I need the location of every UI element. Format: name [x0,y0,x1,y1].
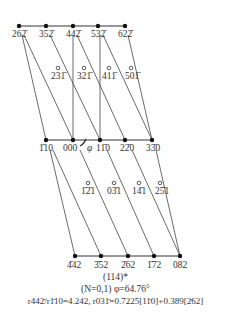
label-bottom-1: 3̄52 [94,260,109,270]
label-upper-open-1: 321̄ [77,71,93,81]
label-top-2: 442̄ [66,29,82,39]
label-middle-4: 33̄0 [146,143,161,153]
label-upper-open-3: 501̄ [125,71,141,81]
upper-connecting-lines [22,35,152,140]
label-middle-1: 000 [63,143,78,153]
label-middle-2: 11̄0 [96,143,110,153]
label-upper-open-0: 231̄ [51,71,67,81]
label-lower-open-3: 25̄1 [155,186,170,196]
caption-ratios: r442̄/r1̄10=4.242, r031̄=0.7225[11̄0]+0.… [0,296,231,306]
caption-zone-axis: (114)* [0,272,231,282]
label-bottom-2: 2̄62 [121,260,136,270]
lower-connecting-lines [50,150,180,256]
label-top-4: 622̄ [118,29,134,39]
label-middle-0: 1̄10 [39,143,53,153]
label-top-1: 352̄ [39,29,55,39]
label-bottom-3: 1̄72 [147,260,162,270]
label-upper-open-2: 411̄ [102,71,118,81]
caption-parameters: (N=0,1) φ=64.76° [0,284,231,294]
label-lower-open-0: 1̄2̄1 [81,186,96,196]
label-lower-open-1: 03̄1 [107,186,122,196]
phi-symbol: φ [87,143,92,153]
label-bottom-4: 082 [173,260,188,270]
open-spots [56,66,162,185]
label-top-3: 532̄ [91,29,107,39]
label-lower-open-2: 14̄1 [132,186,147,196]
label-top-0: 262̄ [12,29,28,39]
label-middle-3: 22̄0 [120,143,135,153]
label-bottom-0: 4̄42 [67,260,82,270]
